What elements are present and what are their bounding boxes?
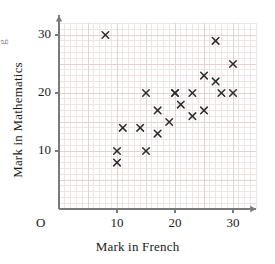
y-axis-title: Mark in Mathematics — [10, 30, 26, 210]
origin-label: O — [36, 215, 45, 231]
y-tick-label: 30 — [25, 26, 51, 42]
x-tick-label: 10 — [104, 215, 130, 231]
clipped-label-fragment: g — [0, 22, 8, 62]
minor-gridlines — [59, 23, 256, 209]
scatter-chart: O Mark in French Mark in Mathematics g 1… — [0, 0, 275, 264]
x-tick-label: 30 — [220, 215, 246, 231]
y-axis-arrowhead — [56, 15, 62, 21]
x-axis-arrowhead — [250, 206, 256, 212]
x-axis-title: Mark in French — [0, 239, 275, 255]
y-tick-label: 10 — [25, 142, 51, 158]
x-tick-label: 20 — [162, 215, 188, 231]
axis-lines — [56, 15, 256, 212]
y-tick-label: 20 — [25, 84, 51, 100]
